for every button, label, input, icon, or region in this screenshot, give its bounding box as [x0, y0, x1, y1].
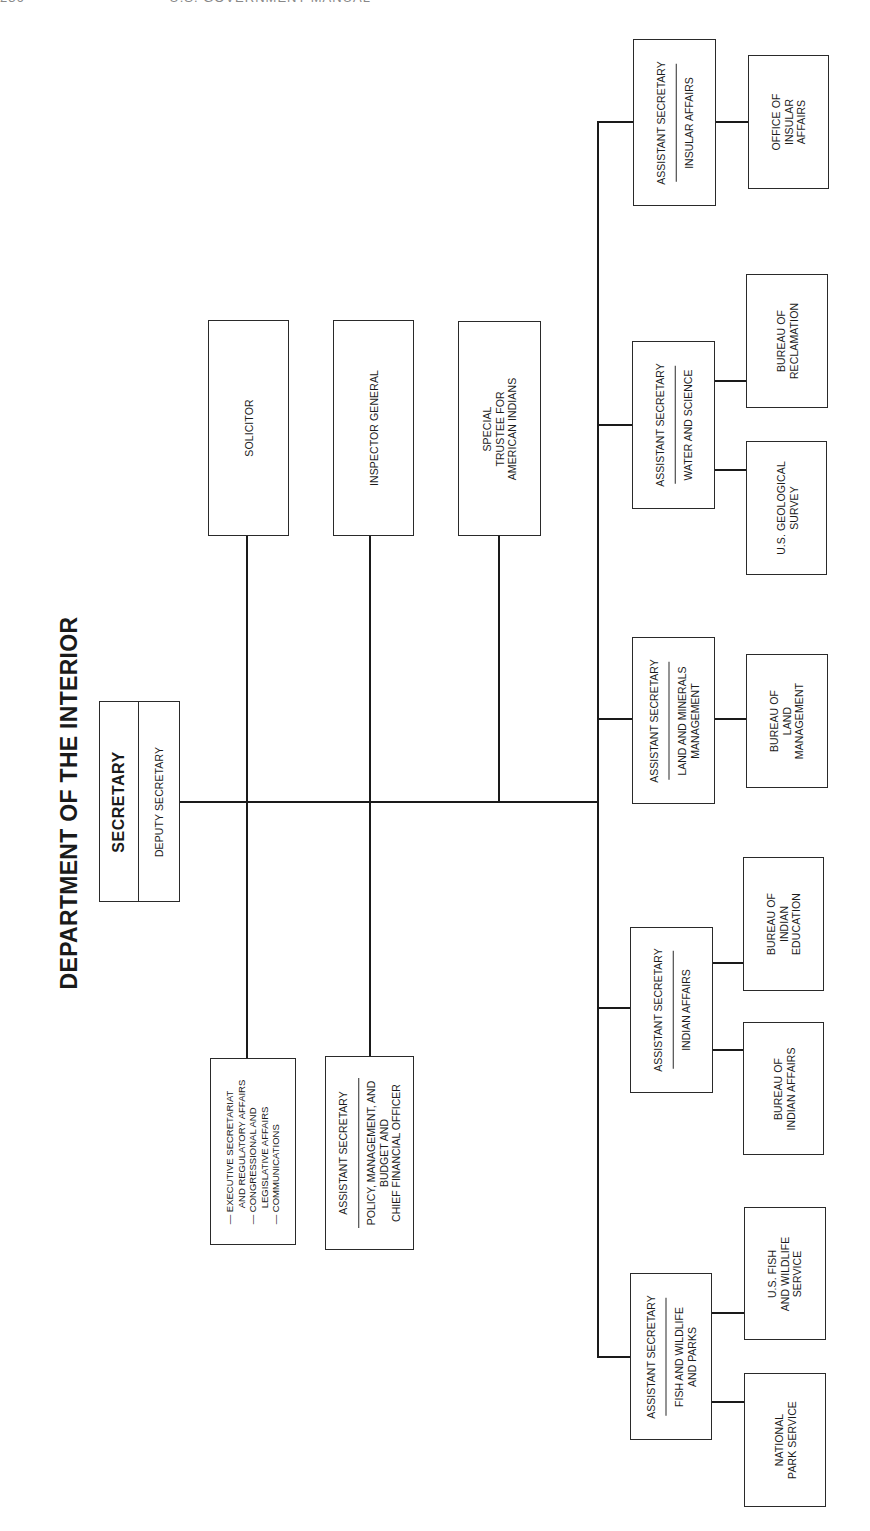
connector-bureau-usgs: [714, 469, 746, 471]
as-role: ASSISTANT SECRETARY: [645, 1295, 658, 1419]
divider: [672, 951, 674, 1069]
inspector-general-label: INSPECTOR GENERAL: [367, 370, 380, 486]
secretary-cell: SECRETARY: [100, 702, 139, 901]
national-park-service-box: NATIONAL PARK SERVICE: [744, 1373, 826, 1507]
secretary-box: SECRETARY DEPUTY SECRETARY: [99, 701, 180, 902]
secretary-title: SECRETARY: [113, 751, 126, 852]
connector-trunk: [597, 121, 599, 1358]
connector-bureau-nps: [711, 1401, 744, 1403]
connector-main-horizontal: [179, 801, 599, 803]
bureau-of-indian-affairs-label: BUREAU OF INDIAN AFFAIRS: [771, 1047, 796, 1130]
exec-item-communications: — COMMUNICATIONS: [270, 1079, 282, 1224]
connector-as-indian: [597, 1007, 630, 1009]
divider: [668, 662, 670, 780]
as-role: ASSISTANT SECRETARY: [647, 659, 660, 783]
office-of-insular-affairs-box: OFFICE OF INSULAR AFFAIRS: [748, 55, 829, 189]
exec-item-secretariat: — EXECUTIVE SECRETARIAT: [224, 1079, 236, 1224]
connector-as-water: [597, 424, 632, 426]
national-park-service-label: NATIONAL PARK SERVICE: [773, 1401, 798, 1479]
connector-bureau-insular: [715, 121, 748, 123]
as-water-science-box: ASSISTANT SECRETARY WATER AND SCIENCE: [632, 341, 715, 509]
blm-box: BUREAU OF LAND MANAGEMENT: [746, 654, 828, 788]
bureau-of-indian-education-box: BUREAU OF INDIAN EDUCATION: [743, 857, 824, 991]
connector-as-insular: [597, 121, 633, 123]
connector-solicitor: [246, 535, 248, 1058]
as-insular-affairs-box: ASSISTANT SECRETARY INSULAR AFFAIRS: [633, 39, 716, 206]
deputy-secretary-cell: DEPUTY SECRETARY: [138, 702, 179, 901]
usgs-label: U.S. GEOLOGICAL SURVEY: [774, 461, 799, 555]
inspector-general-box: INSPECTOR GENERAL: [333, 320, 414, 536]
divider: [674, 366, 676, 484]
blm-label: BUREAU OF LAND MANAGEMENT: [768, 683, 806, 759]
page-number: 236: [0, 0, 25, 5]
connector-as-fish: [597, 1356, 630, 1358]
connector-bureau-bie: [712, 962, 743, 964]
bureau-of-reclamation-label: BUREAU OF RECLAMATION: [775, 303, 800, 379]
solicitor-box: SOLICITOR: [208, 320, 289, 536]
usgs-box: U.S. GEOLOGICAL SURVEY: [746, 441, 827, 575]
bureau-of-reclamation-box: BUREAU OF RECLAMATION: [746, 274, 828, 408]
connector-bureau-reclamation: [714, 380, 746, 382]
policy-management-label: ASSISTANT SECRETARY POLICY, MANAGEMENT, …: [337, 1078, 403, 1228]
bureau-of-indian-affairs-box: BUREAU OF INDIAN AFFAIRS: [743, 1022, 824, 1155]
solicitor-label: SOLICITOR: [242, 399, 255, 456]
exec-item-congressional: — CONGRESSIONAL AND: [247, 1079, 259, 1224]
policy-management-box: ASSISTANT SECRETARY POLICY, MANAGEMENT, …: [325, 1056, 414, 1250]
as-land-minerals-box: ASSISTANT SECRETARY LAND AND MINERALS MA…: [632, 637, 715, 804]
as-role: ASSISTANT SECRETARY: [651, 948, 664, 1072]
as-indian-affairs-box: ASSISTANT SECRETARY INDIAN AFFAIRS: [630, 927, 713, 1093]
divider: [665, 1298, 667, 1416]
bureau-of-indian-education-label: BUREAU OF INDIAN EDUCATION: [765, 893, 803, 955]
connector-special-trustee: [498, 535, 500, 803]
deputy-secretary-title: DEPUTY SECRETARY: [152, 746, 165, 856]
connector-bureau-fws: [711, 1312, 744, 1314]
chart-title: DEPARTMENT OF THE INTERIOR: [56, 617, 83, 990]
as-role: ASSISTANT SECRETARY: [654, 61, 667, 185]
connector-bureau-blm: [714, 718, 746, 720]
running-title: U.S. GOVERNMENT MANUAL: [169, 0, 371, 5]
us-fish-wildlife-service-box: U.S. FISH AND WILDLIFE SERVICE: [744, 1207, 826, 1340]
connector-bureau-bia: [712, 1049, 743, 1051]
as-role: ASSISTANT SECRETARY: [337, 1091, 350, 1215]
connector-as-land: [597, 718, 632, 720]
office-of-insular-affairs-label: OFFICE OF INSULAR AFFAIRS: [770, 94, 808, 151]
executive-offices-list: — EXECUTIVE SECRETARIAT AND REGULATORY A…: [224, 1079, 282, 1224]
as-fish-wildlife-parks-box: ASSISTANT SECRETARY FISH AND WILDLIFE AN…: [630, 1273, 712, 1440]
special-trustee-box: SPECIAL TRUSTEE FOR AMERICAN INDIANS: [458, 321, 541, 536]
us-fish-wildlife-service-label: U.S. FISH AND WILDLIFE SERVICE: [766, 1236, 804, 1311]
divider: [675, 64, 677, 182]
special-trustee-label: SPECIAL TRUSTEE FOR AMERICAN INDIANS: [481, 377, 519, 480]
divider: [357, 1078, 359, 1228]
executive-offices-box: — EXECUTIVE SECRETARIAT AND REGULATORY A…: [210, 1058, 296, 1245]
as-role: ASSISTANT SECRETARY: [653, 363, 666, 487]
running-header: 236 U.S. GOVERNMENT MANUAL: [0, 0, 371, 5]
connector-inspector-general: [369, 535, 371, 1056]
